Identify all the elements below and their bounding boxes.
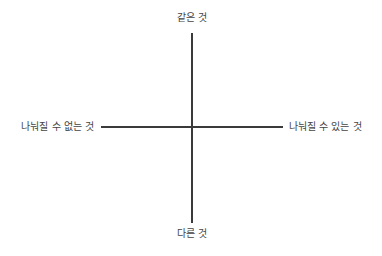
right-axis-label: 나눠질 수 있는 것	[289, 121, 362, 133]
vertical-axis	[191, 33, 193, 223]
bottom-axis-label: 다른 것	[177, 228, 207, 240]
top-axis-label: 같은 것	[177, 12, 207, 24]
left-axis-label: 나눠질 수 없는 것	[21, 121, 94, 133]
